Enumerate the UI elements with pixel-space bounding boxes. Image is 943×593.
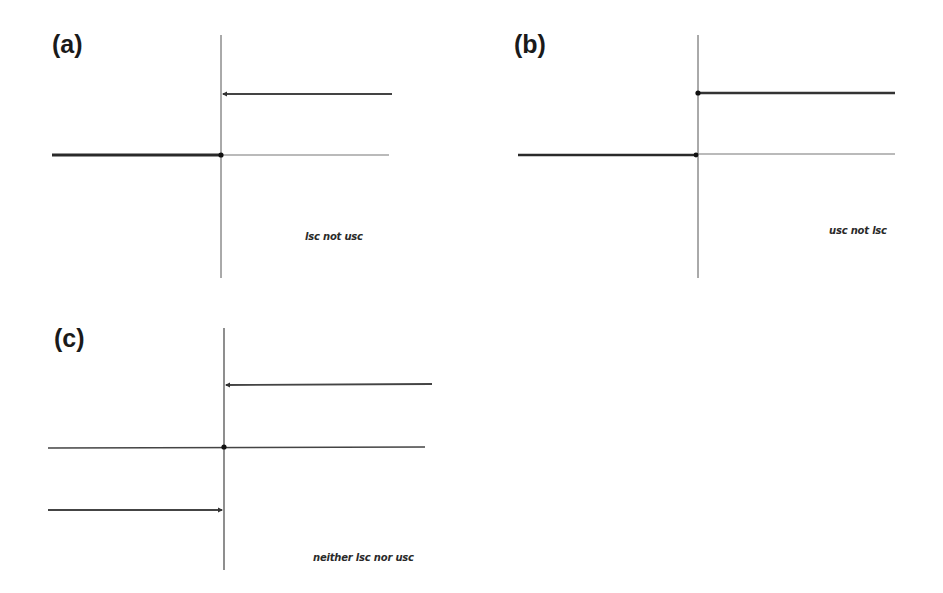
panel-b-caption: usc not lsc — [829, 225, 887, 236]
panel-b-label: (b) — [514, 30, 546, 59]
panel-c-upper-open-end-marker — [225, 383, 230, 388]
diagram-canvas — [0, 0, 943, 593]
panel-b-upper-closed-dot — [695, 90, 700, 95]
panel-c-middle-line — [48, 447, 425, 448]
panel-b-graph — [518, 35, 895, 278]
panel-a-open-end-marker — [222, 92, 227, 97]
panel-a-closed-dot — [218, 152, 223, 157]
panel-c-upper-branch — [226, 384, 432, 385]
panel-c-graph — [48, 328, 432, 570]
panel-c-isolated-dot — [221, 444, 226, 449]
panel-c-label: (c) — [54, 324, 85, 353]
panel-b-left-closed-dot — [694, 153, 699, 158]
panel-c-lower-open-end-marker — [218, 508, 223, 513]
panel-a-label: (a) — [52, 30, 83, 59]
panel-c-caption: neither lsc nor usc — [313, 552, 414, 563]
panel-a-caption: lsc not usc — [305, 231, 363, 242]
